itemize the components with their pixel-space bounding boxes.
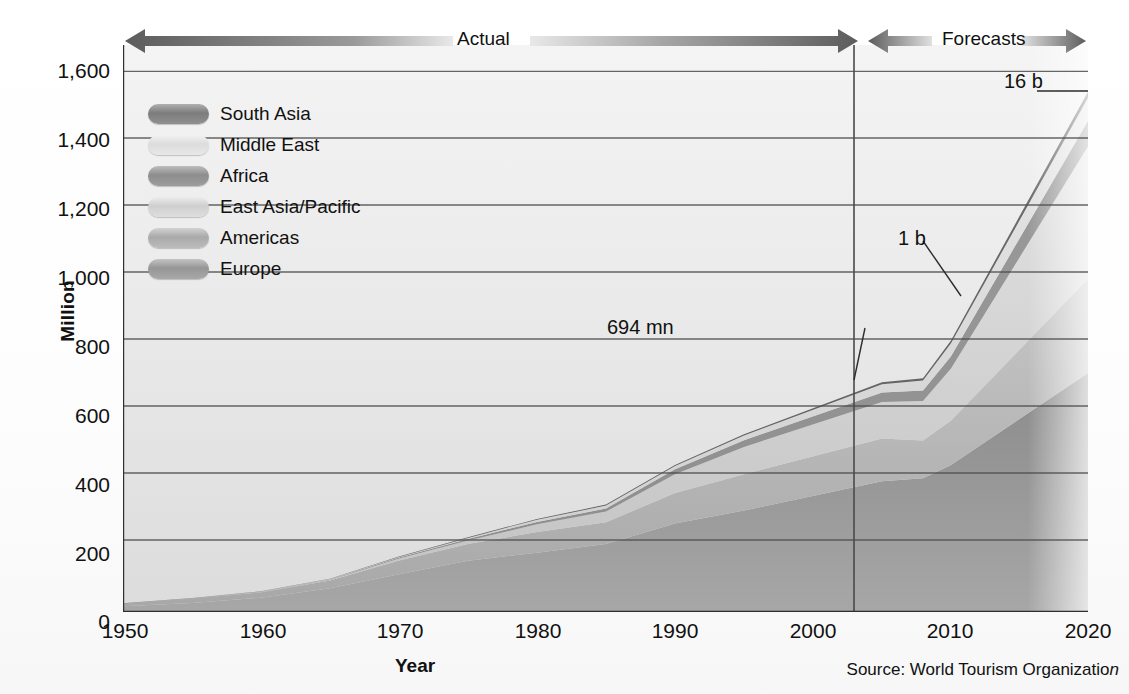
legend-label-middle-east: Middle East [220, 135, 319, 154]
y-tick-0: 0 [18, 610, 110, 634]
legend-swatch-south-asia [148, 104, 209, 124]
y-axis-tick-labels: 0 200 400 600 800 1,000 1,200 1,400 1,60… [14, 0, 110, 694]
source-text-italic-tail: n [1110, 660, 1119, 679]
x-tick-1950: 1950 [102, 619, 149, 643]
x-tick-1970: 1970 [377, 619, 424, 643]
legend-item-south-asia[interactable]: South Asia [148, 98, 398, 129]
x-tick-1990: 1990 [652, 619, 699, 643]
legend-item-africa[interactable]: Africa [148, 160, 398, 191]
legend-swatch-americas [148, 228, 209, 248]
legend-item-americas[interactable]: Americas [148, 222, 398, 253]
annotation-16b: 16 b [1004, 70, 1043, 93]
legend: South Asia Middle East Africa East Asia/… [148, 98, 398, 284]
forecast-band-label: Forecasts [935, 28, 1032, 50]
chart-canvas: Million 0 200 400 600 800 1,000 1,200 1,… [0, 0, 1129, 694]
y-tick-200: 200 [18, 542, 110, 566]
source-text: Source: World Tourism Organizatio [847, 660, 1110, 679]
legend-item-east-asia-pacific[interactable]: East Asia/Pacific [148, 191, 398, 222]
annotation-694mn: 694 mn [607, 316, 674, 339]
y-tick-1000: 1,000 [18, 266, 110, 290]
legend-label-east-asia-pacific: East Asia/Pacific [220, 197, 360, 216]
y-tick-800: 800 [18, 335, 110, 359]
legend-swatch-east-asia-pacific [148, 197, 209, 217]
x-axis-title: Year [395, 655, 435, 677]
x-tick-1960: 1960 [240, 619, 287, 643]
legend-item-europe[interactable]: Europe [148, 253, 398, 284]
x-tick-2010: 2010 [927, 619, 974, 643]
actual-band-label: Actual [450, 28, 517, 50]
page-edge-fade [1028, 45, 1088, 612]
y-tick-400: 400 [18, 473, 110, 497]
source-credit: Source: World Tourism Organization [847, 660, 1119, 680]
y-tick-1400: 1,400 [18, 128, 110, 152]
legend-swatch-africa [148, 166, 209, 186]
legend-label-africa: Africa [220, 166, 269, 185]
legend-swatch-europe [148, 259, 209, 279]
x-tick-1980: 1980 [515, 619, 562, 643]
legend-swatch-middle-east [148, 135, 209, 155]
y-tick-600: 600 [18, 404, 110, 428]
legend-label-americas: Americas [220, 228, 299, 247]
x-tick-2000: 2000 [790, 619, 837, 643]
y-tick-1600: 1,600 [18, 59, 110, 83]
legend-item-middle-east[interactable]: Middle East [148, 129, 398, 160]
legend-label-europe: Europe [220, 259, 281, 278]
annotation-1b: 1 b [898, 227, 926, 250]
y-tick-1200: 1,200 [18, 197, 110, 221]
legend-label-south-asia: South Asia [220, 104, 311, 123]
x-tick-2020: 2020 [1065, 619, 1112, 643]
